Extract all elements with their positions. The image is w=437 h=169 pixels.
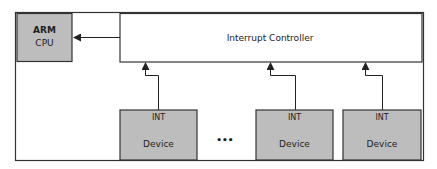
device-box-3: INT Device (343, 110, 421, 160)
device-label: Device (279, 139, 310, 149)
cpu-label-line2: CPU (35, 38, 53, 48)
device-int-label: INT (152, 113, 165, 122)
interrupt-controller-box: Interrupt Controller (120, 14, 422, 63)
device-box-2: INT Device (256, 110, 333, 160)
cpu-label-line1: ARM (33, 25, 56, 35)
device-int-label: INT (288, 113, 301, 122)
device-box-1: INT Device (120, 110, 197, 160)
arm-cpu-box: ARM CPU (17, 14, 72, 62)
device-label: Device (143, 139, 174, 149)
device-int-label: INT (375, 113, 388, 122)
controller-label: Interrupt Controller (227, 33, 314, 43)
interrupt-diagram: ARM CPU Interrupt Controller INT Device … (0, 0, 437, 169)
device-label: Device (367, 139, 398, 149)
more-devices-ellipsis: ••• (216, 135, 233, 145)
